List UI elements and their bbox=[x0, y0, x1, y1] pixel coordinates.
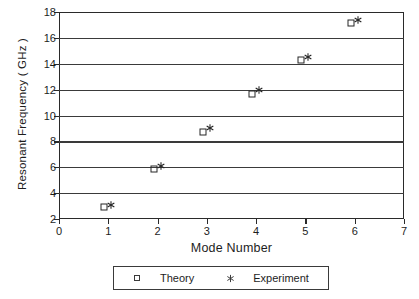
gridline bbox=[59, 116, 404, 117]
y-tick-label: 10 bbox=[44, 110, 56, 122]
x-tick-label: 0 bbox=[56, 225, 62, 237]
legend-entry-theory: Theory bbox=[131, 272, 194, 284]
x-tick-label: 1 bbox=[105, 225, 111, 237]
y-tick-label: 16 bbox=[44, 32, 56, 44]
y-tick-label: 14 bbox=[44, 58, 56, 70]
x-tick-label: 3 bbox=[204, 225, 210, 237]
y-tick-label: 8 bbox=[50, 135, 56, 147]
legend-label-experiment: Experiment bbox=[253, 272, 309, 284]
x-axis-title: Mode Number bbox=[59, 241, 404, 255]
data-point-experiment bbox=[156, 161, 165, 170]
axis-line-top bbox=[59, 12, 404, 13]
gridline bbox=[59, 64, 404, 65]
gridline bbox=[59, 193, 404, 194]
y-tick-label: 12 bbox=[44, 84, 56, 96]
legend-label-theory: Theory bbox=[160, 272, 194, 284]
y-tick-label: 6 bbox=[50, 161, 56, 173]
data-point-experiment bbox=[353, 16, 362, 25]
gridline bbox=[59, 90, 404, 91]
y-axis-title: Resonant Frequency ( GHz ) bbox=[16, 14, 28, 214]
data-point-experiment bbox=[304, 53, 313, 62]
y-tick-label: 4 bbox=[50, 187, 56, 199]
x-tick-label: 4 bbox=[253, 225, 259, 237]
data-point-experiment bbox=[205, 124, 214, 133]
chart-legend: Theory Experiment bbox=[113, 266, 329, 290]
plot-area: 24681012141618 01234567 bbox=[59, 12, 404, 219]
x-tick-label: 7 bbox=[401, 225, 407, 237]
data-point-experiment bbox=[107, 200, 116, 209]
x-tick-label: 5 bbox=[302, 225, 308, 237]
legend-entry-experiment: Experiment bbox=[224, 272, 309, 284]
asterisk-icon bbox=[224, 274, 236, 283]
data-point-experiment bbox=[255, 86, 264, 95]
x-tick-label: 2 bbox=[155, 225, 161, 237]
y-tick-label: 2 bbox=[50, 213, 56, 225]
gridline bbox=[59, 167, 404, 168]
gridline bbox=[59, 38, 404, 39]
open-square-icon bbox=[131, 275, 143, 281]
gridline bbox=[59, 141, 404, 142]
axis-line-bottom bbox=[59, 218, 404, 219]
resonant-frequency-chart: Resonant Frequency ( GHz ) 2468101214161… bbox=[0, 0, 419, 299]
x-tick-label: 6 bbox=[352, 225, 358, 237]
y-tick-label: 18 bbox=[44, 6, 56, 18]
